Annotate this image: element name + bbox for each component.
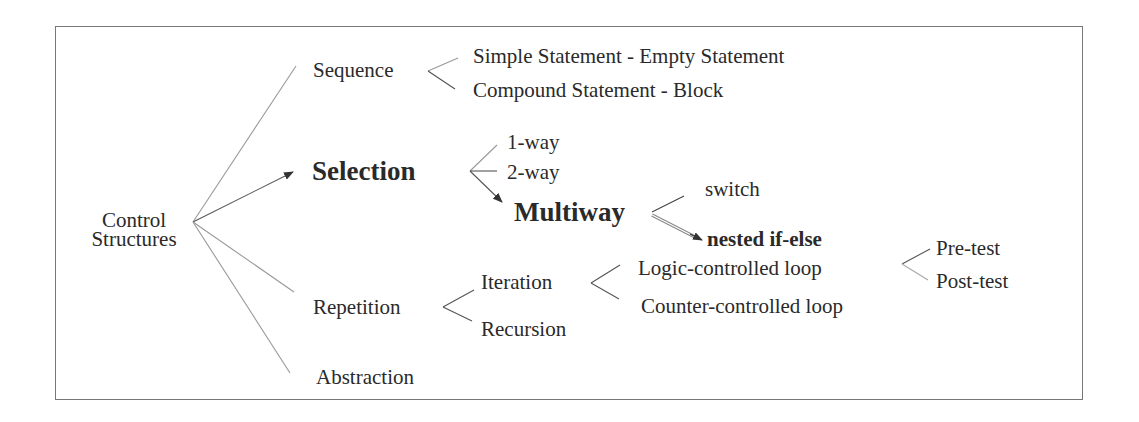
root-line2: Structures xyxy=(74,230,194,249)
edge-root-abstraction xyxy=(193,222,290,373)
node-pre-test: Pre-test xyxy=(936,238,1000,259)
edge-root-repetition xyxy=(193,222,294,292)
node-compound-statement: Compound Statement - Block xyxy=(473,80,723,101)
node-2-way: 2-way xyxy=(507,162,559,183)
node-1-way: 1-way xyxy=(507,132,559,153)
edge-root-selection xyxy=(193,172,293,222)
edge-root-sequence xyxy=(193,66,296,222)
node-switch: switch xyxy=(705,179,760,200)
node-abstraction: Abstraction xyxy=(316,367,414,388)
node-post-test: Post-test xyxy=(936,271,1008,292)
node-selection: Selection xyxy=(312,158,415,185)
node-recursion: Recursion xyxy=(481,319,566,340)
node-logic-controlled-loop: Logic-controlled loop xyxy=(638,258,822,279)
node-simple-statement: Simple Statement - Empty Statement xyxy=(473,46,784,67)
node-counter-controlled-loop: Counter-controlled loop xyxy=(641,296,843,317)
node-nested-if-else: nested if-else xyxy=(707,229,822,250)
node-sequence: Sequence xyxy=(313,60,393,81)
node-multiway: Multiway xyxy=(514,199,625,226)
node-control-structures: Control Structures xyxy=(74,211,194,249)
node-repetition: Repetition xyxy=(313,297,401,318)
node-iteration: Iteration xyxy=(481,272,552,293)
